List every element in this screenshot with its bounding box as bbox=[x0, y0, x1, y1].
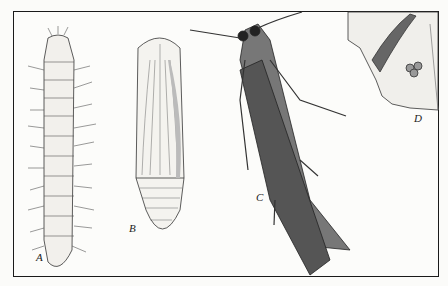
illustration bbox=[0, 0, 448, 286]
panel-label-a: A bbox=[36, 251, 43, 263]
panel-label-b: B bbox=[129, 222, 136, 234]
moth-illustration bbox=[190, 12, 350, 275]
panel-label-d: D bbox=[414, 112, 422, 124]
pupa-illustration bbox=[136, 38, 184, 229]
leaf-with-eggs-illustration bbox=[348, 12, 438, 110]
panel-label-c: C bbox=[256, 191, 263, 203]
larva-illustration bbox=[28, 26, 96, 266]
